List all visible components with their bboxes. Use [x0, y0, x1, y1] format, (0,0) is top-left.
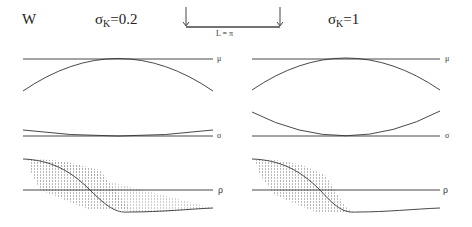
sigma-curve — [23, 130, 213, 136]
mu-curve — [252, 58, 440, 90]
right-panel — [252, 58, 440, 212]
plot-canvas — [0, 0, 472, 227]
rho-shading — [255, 160, 355, 212]
left-panel — [23, 59, 213, 213]
sigma-curve — [252, 111, 440, 136]
mu-curve — [23, 59, 213, 92]
boundary-diagram — [183, 7, 283, 27]
